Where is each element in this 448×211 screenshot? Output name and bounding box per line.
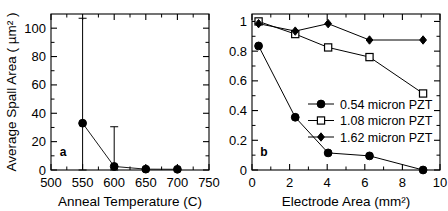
figure-container: 500550600650700750020406080100Anneal Tem… <box>0 0 448 211</box>
legend-marker <box>318 133 325 141</box>
legend-marker <box>317 117 324 124</box>
legend-label: 1.08 micron PZT <box>340 114 433 128</box>
panel-a: 500550600650700750020406080100Anneal Tem… <box>0 0 224 211</box>
data-point <box>142 165 150 173</box>
x-tick-label: 0 <box>248 175 255 190</box>
data-point <box>419 90 426 97</box>
data-point <box>419 166 427 174</box>
plot-frame <box>51 14 209 170</box>
x-tick-label: 550 <box>72 175 94 190</box>
data-point <box>366 152 374 160</box>
panel-b-plot: 024681000.20.40.60.81Electrode Area (mm²… <box>224 0 448 211</box>
plot-frame <box>252 14 440 170</box>
series-line <box>259 21 424 93</box>
series-line <box>259 24 424 40</box>
legend-marker <box>317 100 325 108</box>
y-tick-label: 0.4 <box>229 103 247 118</box>
x-tick-label: 750 <box>198 175 220 190</box>
x-tick-label: 2 <box>286 175 293 190</box>
legend-label: 1.62 micron PZT <box>340 131 433 145</box>
data-point <box>291 113 299 121</box>
panel-b: 024681000.20.40.60.81Electrode Area (mm²… <box>224 0 448 211</box>
legend-label: 0.54 micron PZT <box>340 98 433 112</box>
data-point <box>366 53 373 60</box>
panel-a-plot: 500550600650700750020406080100Anneal Tem… <box>0 0 224 211</box>
x-tick-label: 600 <box>103 175 125 190</box>
data-point <box>325 44 332 51</box>
x-tick-label: 10 <box>433 175 447 190</box>
data-point <box>255 42 263 50</box>
x-axis-label: Electrode Area (mm²) <box>282 194 410 209</box>
data-line <box>83 123 178 169</box>
x-tick-label: 700 <box>167 175 189 190</box>
x-axis-label: Anneal Temperature (C) <box>58 194 202 209</box>
y-tick-label: 0.2 <box>229 133 247 148</box>
y-tick-label: 40 <box>32 106 46 121</box>
y-tick-label: 0.6 <box>229 73 247 88</box>
data-point <box>325 19 332 27</box>
panel-label: b <box>260 145 267 159</box>
data-point <box>324 149 332 157</box>
data-point <box>366 36 373 44</box>
y-tick-label: 80 <box>32 49 46 64</box>
data-point <box>420 36 427 44</box>
x-tick-label: 8 <box>399 175 406 190</box>
y-axis-label: Average Spall Area ( µm² ) <box>4 12 19 171</box>
y-tick-label: 100 <box>24 21 46 36</box>
y-tick-label: 20 <box>32 134 46 149</box>
y-tick-label: 0.8 <box>229 44 247 59</box>
y-tick-label: 0 <box>240 163 247 178</box>
data-point <box>79 119 87 127</box>
panel-label: a <box>60 145 67 159</box>
x-tick-label: 4 <box>324 175 331 190</box>
x-tick-label: 650 <box>135 175 157 190</box>
data-point <box>174 165 182 173</box>
y-tick-label: 60 <box>32 77 46 92</box>
x-tick-label: 6 <box>361 175 368 190</box>
y-tick-label: 1 <box>240 14 247 29</box>
y-tick-label: 0 <box>39 163 46 178</box>
data-point <box>110 163 118 171</box>
